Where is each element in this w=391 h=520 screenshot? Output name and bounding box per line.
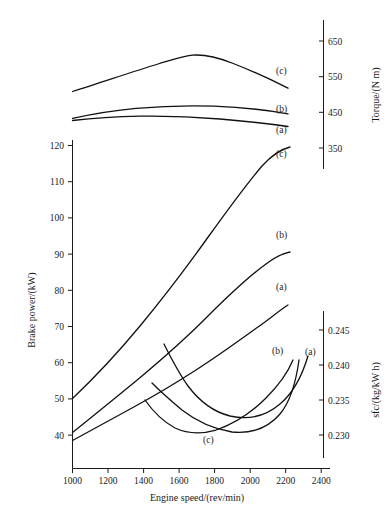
ytick-label-70: 70: [55, 322, 65, 332]
curve-label-sfc-a: (a): [305, 347, 316, 358]
ytick-label-60: 60: [55, 358, 65, 368]
curve-label-brake-power-c: (c): [276, 149, 287, 160]
curve-sfc-b: [152, 360, 299, 432]
sfc-tick-label-0230: 0.230: [328, 431, 350, 441]
curve-sfc-a: [164, 344, 308, 418]
xtick-label-1600: 1600: [170, 476, 189, 486]
curve-label-torque-a: (a): [276, 125, 287, 136]
curve-label-brake-power-a: (a): [276, 282, 287, 293]
curve-label-torque-b: (b): [276, 104, 287, 115]
xtick-label-1800: 1800: [205, 476, 224, 486]
sfc-tick-label-0235: 0.235: [328, 396, 350, 406]
curve-label-sfc-b: (b): [272, 346, 283, 357]
y-axis-title: Brake power/(kW): [26, 272, 38, 347]
xtick-label-2200: 2200: [276, 476, 295, 486]
xtick-label-2400: 2400: [312, 476, 331, 486]
ytick-label-40: 40: [55, 431, 65, 441]
ytick-label-100: 100: [50, 213, 65, 223]
torque-tick-label-350: 350: [328, 144, 343, 154]
engine-performance-chart: 120 110 100 90 80 70 60 50 40 Brake powe…: [0, 0, 391, 520]
ytick-label-80: 80: [55, 286, 65, 296]
sfc-tick-label-0245: 0.245: [328, 326, 350, 336]
ytick-label-50: 50: [55, 394, 65, 404]
left-axis-ticks: [68, 146, 73, 436]
xtick-label-1200: 1200: [99, 476, 118, 486]
torque-tick-label-550: 550: [328, 72, 343, 82]
curve-torque-c: [73, 55, 289, 92]
torque-axis-title: Torque/(N m): [370, 67, 382, 122]
x-axis-title: Engine speed/(rev/min): [150, 492, 244, 504]
sfc-axis-title: sfc/(kg/kW h): [370, 362, 382, 418]
torque-tick-label-650: 650: [328, 37, 343, 47]
curve-label-torque-c: (c): [276, 66, 287, 77]
chart-canvas: 120 110 100 90 80 70 60 50 40 Brake powe…: [0, 0, 391, 520]
curve-brake-power-c: [73, 147, 291, 399]
bottom-axis-ticks: [73, 469, 322, 474]
xtick-label-2000: 2000: [241, 476, 260, 486]
sfc-axis: [319, 311, 324, 458]
curve-label-brake-power-b: (b): [276, 230, 287, 241]
xtick-label-1400: 1400: [134, 476, 153, 486]
curve-torque-a: [73, 116, 289, 126]
curve-label-sfc-c: (c): [203, 435, 214, 446]
curve-brake-power-a: [73, 305, 289, 441]
torque-tick-label-450: 450: [328, 108, 343, 118]
ytick-label-110: 110: [50, 177, 64, 187]
torque-axis: [319, 20, 324, 169]
ytick-label-90: 90: [55, 250, 65, 260]
ytick-label-120: 120: [50, 141, 65, 151]
xtick-label-1000: 1000: [63, 476, 82, 486]
sfc-tick-label-0240: 0.240: [328, 361, 350, 371]
